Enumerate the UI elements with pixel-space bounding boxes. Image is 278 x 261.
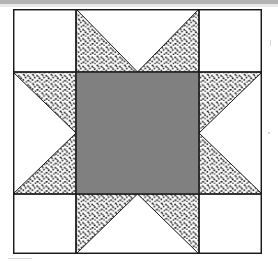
quilt-block — [13, 9, 262, 254]
quilt-diagram-page — [0, 0, 278, 261]
scan-speck — [268, 132, 270, 134]
quilt-block-svg — [13, 9, 262, 254]
scan-edge-band-light — [0, 4, 278, 7]
scan-speck — [270, 40, 271, 46]
scan-speck — [8, 258, 32, 259]
center-square — [76, 72, 199, 194]
